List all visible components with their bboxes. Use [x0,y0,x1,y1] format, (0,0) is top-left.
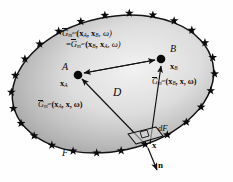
boundary-surface-label: F [62,148,68,159]
reciprocity-equation-line2: =Gmar(xB, xA, ω) [66,40,121,50]
surface-element-label: dF [158,124,168,133]
surface-point-label: x [152,141,156,150]
normal-vector-label: n [158,161,163,170]
reciprocity-equation-line1: Gmar(xA, xB, ω) [62,29,112,39]
point-a-label: A [62,62,68,73]
green-function-b-label: Gmar(xB, x, ω) [152,78,197,87]
green-function-a-label: Gmar(xA, x, ω) [38,101,83,110]
green-fn-symbol-1: G [62,29,68,38]
point-b-position-label: xB [170,62,178,72]
normal-vector-arrow [148,148,157,170]
point-a-position-label: xA [60,79,68,89]
green-fn-symbol-2: G [71,40,77,49]
point-a-dot [74,71,83,80]
figure-canvas: Gmar(xA, xB, ω) =Gmar(xB, xA, ω) A xA B … [0,0,233,182]
point-b-label: B [170,44,176,55]
domain-label: D [113,86,121,98]
point-b-dot [157,55,166,64]
